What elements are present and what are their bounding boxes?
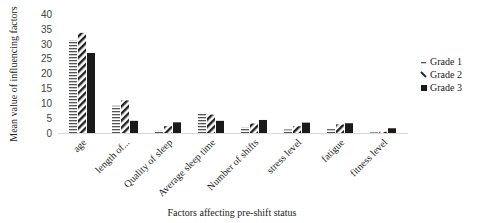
- legend-label: Grade 2: [430, 69, 462, 80]
- x-axis-title: Factors affecting pre-shift status: [168, 207, 297, 218]
- bar-grade-3: [259, 120, 267, 133]
- x-tick-label: fitness level: [348, 136, 390, 178]
- legend-label: Grade 1: [430, 56, 462, 67]
- y-tick-label: 35: [41, 24, 53, 35]
- bar-grade-2: [207, 115, 215, 133]
- legend-swatch-grade-1: [421, 62, 426, 63]
- bar-grade-1: [112, 106, 120, 133]
- bar-grade-3: [173, 122, 181, 133]
- bar-group: [284, 123, 310, 133]
- legend-item: Grade 3: [421, 82, 462, 93]
- bar-group: [112, 100, 138, 133]
- bar-grade-3: [345, 123, 353, 133]
- bar-grade-1: [198, 113, 206, 133]
- bar-grade-1: [155, 131, 163, 133]
- bar-chart: 0510152025303540 agelength of...Quality …: [0, 0, 487, 223]
- y-tick-label: 20: [41, 68, 53, 79]
- y-tick-label: 40: [41, 9, 53, 20]
- bar-grade-2: [379, 132, 387, 133]
- bar-grade-2: [336, 124, 344, 133]
- bar-grade-1: [284, 129, 292, 133]
- legend: Grade 1Grade 2Grade 3: [421, 56, 462, 93]
- bar-grade-1: [241, 127, 249, 133]
- legend-swatch-grade-3: [421, 85, 427, 91]
- bar-grade-3: [302, 123, 310, 133]
- x-tick-label: age: [71, 136, 89, 154]
- bar-grade-2: [293, 126, 301, 133]
- x-tick-label: stress level: [264, 136, 303, 175]
- x-tick-label: length of...: [93, 137, 131, 175]
- bar-grade-2: [164, 126, 172, 133]
- legend-swatch-grade-2: [421, 72, 426, 77]
- y-tick-label: 10: [41, 98, 53, 109]
- x-tick-label: fatigue: [319, 136, 347, 164]
- bar-group: [241, 120, 267, 133]
- legend-item: Grade 1: [421, 56, 462, 67]
- y-tick-label: 30: [41, 39, 53, 50]
- bar-group: [370, 128, 396, 133]
- bar-grade-2: [121, 100, 129, 133]
- y-axis-title: Mean value of influencing factors: [8, 6, 19, 142]
- bars: [69, 33, 396, 133]
- bar-grade-1: [69, 40, 77, 133]
- bar-grade-3: [87, 53, 95, 133]
- bar-grade-2: [78, 33, 86, 133]
- bar-grade-3: [216, 121, 224, 133]
- bar-grade-1: [327, 129, 335, 133]
- bar-group: [155, 122, 181, 133]
- x-axis: agelength of...Quality of sleepAverage s…: [58, 134, 408, 199]
- bar-grade-3: [388, 128, 396, 133]
- bar-grade-2: [250, 124, 258, 133]
- y-tick-label: 15: [41, 83, 53, 94]
- bar-group: [327, 123, 353, 133]
- y-tick-label: 5: [46, 113, 52, 124]
- bar-grade-3: [130, 121, 138, 133]
- legend-item: Grade 2: [421, 69, 462, 80]
- y-axis: 0510152025303540: [41, 9, 53, 139]
- bar-grade-1: [370, 132, 378, 133]
- y-tick-label: 25: [41, 53, 53, 64]
- legend-label: Grade 3: [430, 82, 462, 93]
- bar-group: [198, 113, 224, 133]
- y-tick-label: 0: [46, 128, 52, 139]
- bar-group: [69, 33, 95, 133]
